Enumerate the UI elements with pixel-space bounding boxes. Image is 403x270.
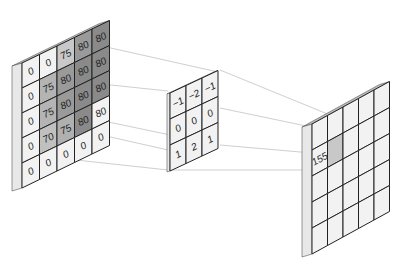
panel-side-edge	[302, 124, 312, 257]
kernel-matrix: −1−2−1000121	[167, 71, 218, 172]
convolution-diagram: 0075808007580808007580808007075808000000…	[0, 0, 403, 270]
output-matrix: 155	[302, 82, 390, 258]
input-matrix: 0075808007580808007580808007075808000000	[12, 21, 110, 192]
panel-side-edge	[12, 63, 22, 191]
